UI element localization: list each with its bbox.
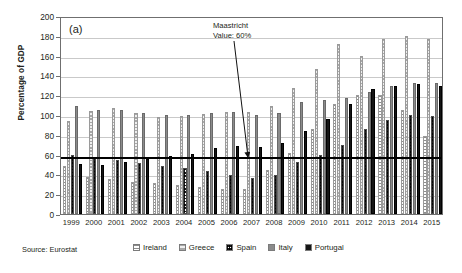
y-tick-label: 200 <box>22 13 54 21</box>
bar-group <box>196 18 219 214</box>
legend-swatch-icon <box>268 244 275 251</box>
legend-label: Greece <box>189 243 215 252</box>
bar-greece-2014 <box>405 36 408 214</box>
x-tick-label: 2002 <box>128 217 151 229</box>
bar-italy-2003 <box>165 115 168 214</box>
y-tick-label: 140 <box>22 72 54 80</box>
bar-portugal-2010 <box>326 119 329 214</box>
bar-italy-2004 <box>187 115 190 214</box>
x-tick-label: 2005 <box>195 217 218 229</box>
x-tick-label: 2000 <box>83 217 106 229</box>
y-tick-label: 20 <box>22 191 54 199</box>
legend-item-greece[interactable]: Greece <box>179 243 215 252</box>
x-tick-label: 2014 <box>398 217 421 229</box>
bar-ireland-2006 <box>221 189 224 214</box>
bar-group <box>151 18 174 214</box>
maastricht-annotation: Maastricht Value: 60% <box>213 21 251 41</box>
bar-ireland-2013 <box>378 95 381 214</box>
bar-greece-1999 <box>67 121 70 214</box>
bar-italy-2005 <box>210 113 213 214</box>
bar-group <box>241 18 264 214</box>
x-tick-label: 2004 <box>173 217 196 229</box>
bar-greece-2000 <box>89 111 92 214</box>
legend-swatch-icon <box>226 244 233 251</box>
x-tick-label: 2006 <box>218 217 241 229</box>
legend-label: Portugal <box>315 243 344 252</box>
bar-portugal-2014 <box>417 84 420 214</box>
bar-group <box>399 18 422 214</box>
bar-group <box>84 18 107 214</box>
legend-label: Spain <box>236 243 256 252</box>
bar-greece-2011 <box>337 44 340 214</box>
y-tick-mark <box>56 215 60 216</box>
bar-greece-2015 <box>427 39 430 214</box>
bar-portugal-2011 <box>349 104 352 214</box>
bar-greece-2010 <box>315 69 318 214</box>
bar-greece-2005 <box>202 114 205 214</box>
legend-item-ireland[interactable]: Ireland <box>133 243 167 252</box>
y-tick-label: 180 <box>22 33 54 41</box>
x-axis-labels: 1999200020012002200320042005200620072008… <box>60 217 443 231</box>
bar-portugal-2012 <box>371 89 374 214</box>
bar-greece-2009 <box>292 88 295 214</box>
bar-greece-2002 <box>134 113 137 214</box>
bar-spain-2004 <box>183 168 186 214</box>
bar-spain-2013 <box>386 120 389 214</box>
bar-group <box>286 18 309 214</box>
y-tick-label: 40 <box>22 171 54 179</box>
bar-spain-2009 <box>296 162 299 214</box>
y-tick-label: 100 <box>22 112 54 120</box>
bar-italy-1999 <box>75 106 78 214</box>
bar-spain-2001 <box>116 160 119 214</box>
bar-greece-2007 <box>247 112 250 214</box>
bar-ireland-2012 <box>356 95 359 214</box>
bar-spain-2007 <box>251 178 254 214</box>
legend-swatch-icon <box>305 244 312 251</box>
plot-area: (a) <box>60 17 443 215</box>
bar-italy-2006 <box>232 112 235 214</box>
bar-spain-2010 <box>319 155 322 214</box>
legend-swatch-icon <box>133 244 140 251</box>
bar-spain-2003 <box>161 166 164 214</box>
bar-spain-2012 <box>364 129 367 214</box>
bar-ireland-2009 <box>288 153 291 214</box>
bar-ireland-2011 <box>333 104 336 214</box>
legend-item-spain[interactable]: Spain <box>226 243 256 252</box>
bar-greece-2001 <box>112 108 115 214</box>
bar-group <box>421 18 444 214</box>
bar-ireland-2015 <box>423 136 426 214</box>
bar-ireland-2005 <box>198 187 201 214</box>
bar-greece-2012 <box>360 56 363 214</box>
bar-italy-2007 <box>255 115 258 214</box>
bar-portugal-2000 <box>101 165 104 215</box>
bar-spain-1999 <box>71 155 74 214</box>
legend-item-portugal[interactable]: Portugal <box>305 243 344 252</box>
x-tick-label: 2013 <box>375 217 398 229</box>
maastricht-reference-line <box>61 157 442 159</box>
bar-spain-2014 <box>409 115 412 214</box>
x-tick-label: 2008 <box>263 217 286 229</box>
bar-group <box>129 18 152 214</box>
bar-group <box>376 18 399 214</box>
bar-greece-2003 <box>157 117 160 214</box>
bar-group <box>331 18 354 214</box>
bar-ireland-2010 <box>311 129 314 214</box>
bar-portugal-2009 <box>304 131 307 214</box>
bar-ireland-1999 <box>63 166 66 214</box>
bar-group <box>174 18 197 214</box>
bar-group <box>219 18 242 214</box>
bar-groups <box>61 18 442 214</box>
bar-portugal-2002 <box>146 159 149 214</box>
bar-ireland-2004 <box>176 185 179 214</box>
bar-ireland-2003 <box>153 183 156 214</box>
bar-spain-2011 <box>341 145 344 214</box>
y-tick-label: 80 <box>22 132 54 140</box>
legend-item-italy[interactable]: Italy <box>268 243 292 252</box>
bar-group <box>264 18 287 214</box>
bar-portugal-2015 <box>439 86 442 214</box>
x-tick-label: 2003 <box>150 217 173 229</box>
bar-italy-2008 <box>277 113 280 214</box>
annotation-line-2: Value: 60% <box>213 31 251 41</box>
bar-group <box>106 18 129 214</box>
bar-portugal-2004 <box>191 154 194 214</box>
